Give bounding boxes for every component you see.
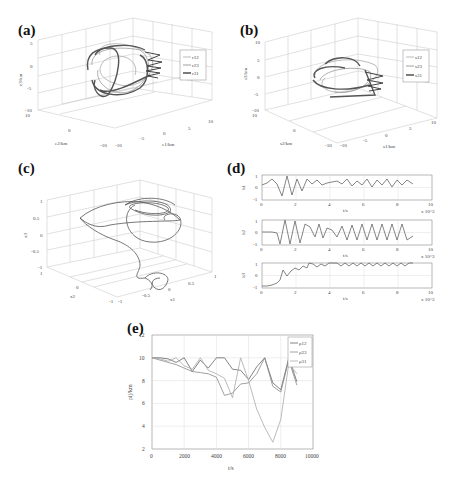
d-h3-xlabel: t/s (343, 296, 348, 301)
a-z-tick: -5 (27, 86, 32, 91)
svg-text:0: 0 (255, 273, 258, 278)
b-x-tick: 10 (431, 120, 437, 125)
e-ylabel: ρij/km (127, 384, 133, 400)
a-z-tick: 5 (30, 41, 33, 46)
svg-text:0: 0 (260, 247, 263, 252)
d-h2-xlabel: t/s (343, 253, 348, 258)
e-x-ticks: 0 2000 4000 6000 8000 10000 (150, 453, 319, 459)
a-legend-r12: r12 (192, 55, 199, 60)
b-zlabel: s3/km (243, 68, 248, 80)
d-subplot-h3: 10-1 h3 0246810 t/s x 10^3 (241, 262, 435, 302)
svg-text:2: 2 (142, 446, 145, 452)
chart-a-3d: 5 0 -5 -10 10 0 -10 -10 -5 0 5 10 e2/km … (0, 0, 230, 160)
e-xlabel: t/s (228, 465, 234, 471)
svg-text:4000: 4000 (211, 453, 222, 459)
b-y-tick: 0 (293, 128, 296, 133)
b-y-tick: 10 (252, 113, 258, 118)
svg-text:8: 8 (396, 290, 399, 295)
b-z-tick: 5 (257, 58, 260, 63)
d-h3-multiplier: x 10^3 (421, 297, 435, 302)
c-ylabel: x2 (70, 294, 76, 299)
a-legend-r31: r31 (192, 71, 199, 76)
b-z-tick: 10 (255, 40, 261, 45)
e-series-line-1 (152, 358, 297, 390)
c-z-tick: 0.5 (33, 216, 40, 221)
svg-text:6: 6 (362, 247, 365, 252)
d-h1-multiplier: x 10^3 (421, 209, 435, 214)
svg-text:6000: 6000 (243, 453, 254, 459)
svg-text:4: 4 (328, 202, 331, 207)
e-legend-p31: ρ31 (299, 359, 307, 364)
c-y-tick: -1 (109, 299, 114, 304)
svg-text:2: 2 (294, 202, 297, 207)
chart-b-3d: 10 5 0 -5 -10 10 0 -10 -10 -5 0 5 10 s2/… (225, 0, 455, 160)
svg-text:10000: 10000 (305, 453, 319, 459)
c-z-tick: 1 (40, 199, 43, 204)
b-y-tick: -10 (325, 143, 332, 148)
chart-c-3d: 1 0.5 0 -0.5 -1 1 0 -1 -1 -0.5 0 0.5 1 x… (0, 160, 230, 310)
a-x-tick: 10 (208, 119, 214, 124)
e-legend: ρ12 ρ23 ρ31 (288, 337, 312, 367)
b-legend-s23: s23 (415, 64, 422, 69)
svg-text:-1: -1 (253, 285, 258, 290)
svg-text:1: 1 (255, 262, 258, 267)
svg-text:1: 1 (255, 174, 258, 179)
b-x-tick: -10 (340, 143, 347, 148)
a-x-tick: -10 (115, 143, 122, 148)
svg-text:6: 6 (362, 202, 365, 207)
b-x-tick: -5 (363, 138, 368, 143)
b-legend-s12: s12 (415, 55, 422, 60)
svg-text:0: 0 (150, 453, 153, 459)
d-h3-ylabel: h3 (241, 273, 246, 279)
svg-text:4: 4 (142, 423, 145, 429)
d-h2-multiplier: x 10^3 (421, 254, 435, 259)
svg-text:0: 0 (260, 202, 263, 207)
b-z-tick: 0 (257, 75, 260, 80)
svg-text:2000: 2000 (179, 453, 190, 459)
c-y-tick: 1 (40, 271, 43, 276)
c-zlabel: x3 (23, 233, 28, 239)
svg-text:8000: 8000 (275, 453, 286, 459)
svg-text:-1: -1 (253, 197, 258, 202)
c-z-tick: -0.5 (31, 249, 39, 254)
c-x-tick: -1 (118, 299, 123, 304)
a-zlabel: e3/km (18, 73, 23, 86)
a-legend-r23: r23 (192, 63, 199, 68)
svg-text:4: 4 (328, 247, 331, 252)
b-legend: s12 s23 s31 (403, 50, 429, 82)
svg-text:2: 2 (294, 290, 297, 295)
c-y-tick: 0 (76, 285, 79, 290)
svg-text:-1: -1 (253, 242, 258, 247)
a-xlabel: e1/km (162, 142, 175, 147)
d-h1-xlabel: t/s (343, 208, 348, 213)
b-x-tick: 0 (385, 133, 388, 138)
d-h1-ylabel: h1 (241, 185, 246, 191)
c-x-tick: 1 (214, 274, 217, 279)
chart-d-timeseries: 10-1 h1 0246810 t/s x 10^3 10-1 h2 02468… (225, 160, 455, 310)
c-z-tick: -1 (38, 265, 43, 270)
c-x-tick: 0 (168, 287, 171, 292)
svg-text:8: 8 (396, 247, 399, 252)
svg-text:0: 0 (255, 185, 258, 190)
svg-text:1: 1 (255, 219, 258, 224)
a-legend: r12 r23 r31 (180, 50, 206, 80)
e-series-line-2 (152, 358, 297, 396)
a-ylabel: e2/km (55, 141, 68, 146)
svg-text:10: 10 (139, 355, 145, 361)
e-legend-p12: ρ12 (299, 341, 307, 346)
d-h2-ylabel: h2 (241, 230, 246, 236)
svg-text:12: 12 (139, 332, 145, 338)
e-series-line-3 (152, 358, 297, 442)
a-x-tick: -5 (140, 136, 145, 141)
c-x-tick: -0.5 (142, 293, 150, 298)
b-xlabel: s1/km (383, 144, 395, 149)
d-subplot-h1: 10-1 h1 0246810 t/s x 10^3 (241, 174, 435, 214)
e-legend-p23: ρ23 (299, 350, 307, 355)
chart-e-line: 2 4 6 8 10 12 0 2000 4000 6000 8000 1000… (120, 310, 355, 485)
svg-text:8: 8 (396, 202, 399, 207)
b-x-tick: 5 (409, 126, 412, 131)
c-z-tick: 0 (40, 233, 43, 238)
a-y-tick: 0 (68, 128, 71, 133)
svg-text:0: 0 (260, 290, 263, 295)
b-z-tick: -5 (254, 92, 259, 97)
